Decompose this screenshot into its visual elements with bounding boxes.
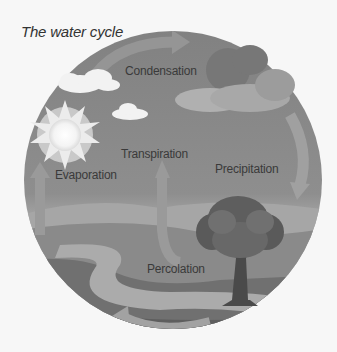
water-cycle-illustration [0,0,337,352]
label-transpiration: Transpiration [121,147,188,161]
label-condensation: Condensation [125,64,197,78]
label-evaporation: Evaporation [55,168,117,182]
label-precipitation: Precipitation [215,162,278,176]
label-percolation: Percolation [147,262,205,276]
